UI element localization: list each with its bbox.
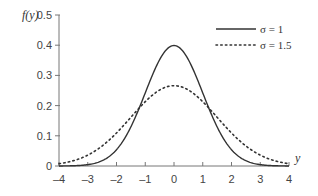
curve-sigma-1 [59,46,289,166]
y-tick-label: 0.1 [37,130,52,142]
y-tick-label: 0 [46,160,52,172]
x-tick-label: 0 [171,173,177,185]
x-tick-label: 2 [228,173,234,185]
x-tick-label: –3 [82,173,94,185]
x-tick-label: –4 [53,173,65,185]
x-tick-label: 3 [257,173,263,185]
y-axis-label: f(y) [22,8,39,22]
curves [59,46,289,166]
y-tick-label: 0.4 [37,39,52,51]
y-tick-label: 0.2 [37,100,52,112]
legend: σ = 1σ = 1.5 [216,23,292,51]
curve-sigma-1-5 [59,86,289,164]
x-tick-label: –2 [110,173,122,185]
x-tick-label: 4 [286,173,292,185]
chart: 00.10.20.30.40.5–4–3–2–101234f(y)y σ = 1… [0,0,318,196]
legend-label-sigma-1: σ = 1 [260,23,283,35]
x-tick-label: 1 [200,173,206,185]
y-tick-label: 0.5 [37,9,52,21]
y-tick-label: 0.3 [37,69,52,81]
legend-label-sigma-1-5: σ = 1.5 [260,39,292,51]
x-tick-label: –1 [139,173,151,185]
x-axis-label: y [294,151,301,165]
